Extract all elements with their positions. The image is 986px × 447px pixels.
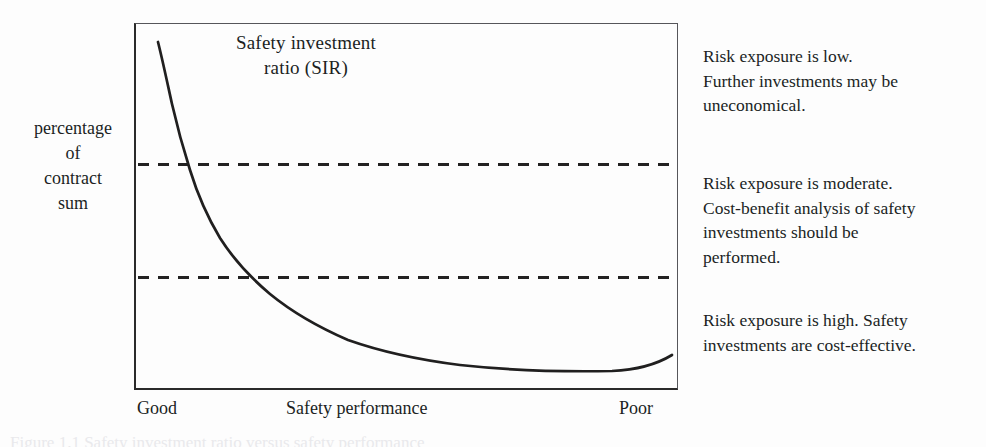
annotation-risk-moderate: Risk exposure is moderate. Cost-benefit … — [703, 171, 971, 269]
chart-title-line-2: ratio (SIR) — [196, 55, 416, 80]
y-axis-label-line-2: of — [16, 141, 130, 166]
figure-root: Safety investment ratio (SIR) percentage… — [0, 0, 986, 447]
x-axis-tick-label-good: Good — [137, 396, 177, 420]
y-axis-label-line-3: contract — [16, 166, 130, 191]
chart-title-line-1: Safety investment — [196, 30, 416, 55]
figure-caption-sliver: Figure 1.1 Safety investment ratio versu… — [10, 433, 630, 447]
x-axis-title: Safety performance — [286, 396, 427, 420]
annotation-risk-high: Risk exposure is high. Safety investment… — [703, 308, 971, 357]
y-axis-label-line-4: sum — [16, 191, 130, 216]
x-axis-tick-label-poor: Poor — [619, 396, 653, 420]
y-axis-label: percentage of contract sum — [16, 116, 130, 216]
annotation-risk-low: Risk exposure is low. Further investment… — [703, 44, 971, 118]
y-axis-label-line-1: percentage — [16, 116, 130, 141]
chart-title: Safety investment ratio (SIR) — [196, 30, 416, 80]
